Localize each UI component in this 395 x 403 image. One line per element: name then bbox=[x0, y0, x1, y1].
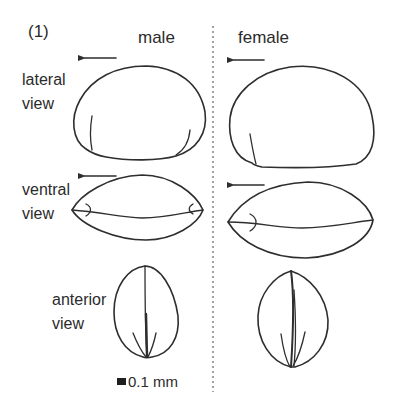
male-ventral-view bbox=[72, 175, 203, 240]
female-anterior-view bbox=[258, 271, 328, 367]
diagram-canvas bbox=[0, 0, 395, 403]
female-ventral-view bbox=[228, 182, 373, 258]
female-lateral-view bbox=[230, 66, 374, 167]
male-anterior-view bbox=[114, 266, 178, 358]
male-lateral-view bbox=[74, 66, 206, 160]
